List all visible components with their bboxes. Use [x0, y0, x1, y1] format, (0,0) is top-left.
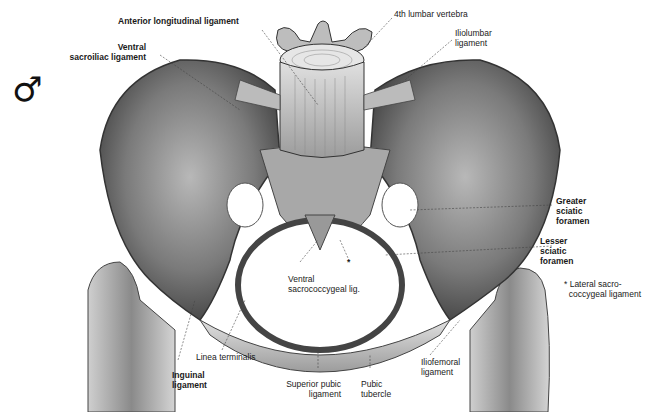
label-anterior-longitudinal-ligament: Anterior longitudinal ligament: [118, 16, 239, 26]
male-symbol: ♂: [12, 72, 42, 106]
label-lesser-sciatic-foramen: Lesser sciatic foramen: [540, 236, 574, 266]
label-iliofemoral-ligament: Iliofemoral ligament: [421, 357, 460, 377]
right-greater-sciatic-foramen: [382, 183, 418, 227]
label-pubic-tubercle: Pubic tubercle: [361, 379, 391, 399]
label-superior-pubic-ligament: Superior pubic ligament: [275, 379, 341, 399]
label-inguinal-ligament: Inguinal ligament: [172, 370, 207, 390]
label-ventral-sacrococcygeal-ligament: Ventral sacrococcygeal lig.: [288, 274, 360, 294]
label-lateral-sacrococcygeal-ligament: * Lateral sacro- coccygeal ligament: [564, 279, 641, 299]
left-greater-sciatic-foramen: [227, 183, 263, 227]
asterisk-marker: *: [347, 257, 350, 267]
label-greater-sciatic-foramen: Greater sciatic foramen: [556, 196, 590, 226]
label-iliolumbar-ligament: Iliolumbar ligament: [455, 28, 492, 48]
label-linea-terminalis: Linea terminalis: [196, 352, 256, 362]
label-4th-lumbar-vertebra: 4th lumbar vertebra: [394, 9, 468, 19]
label-ventral-sacroiliac-ligament: Ventral sacroiliac ligament: [50, 42, 146, 62]
